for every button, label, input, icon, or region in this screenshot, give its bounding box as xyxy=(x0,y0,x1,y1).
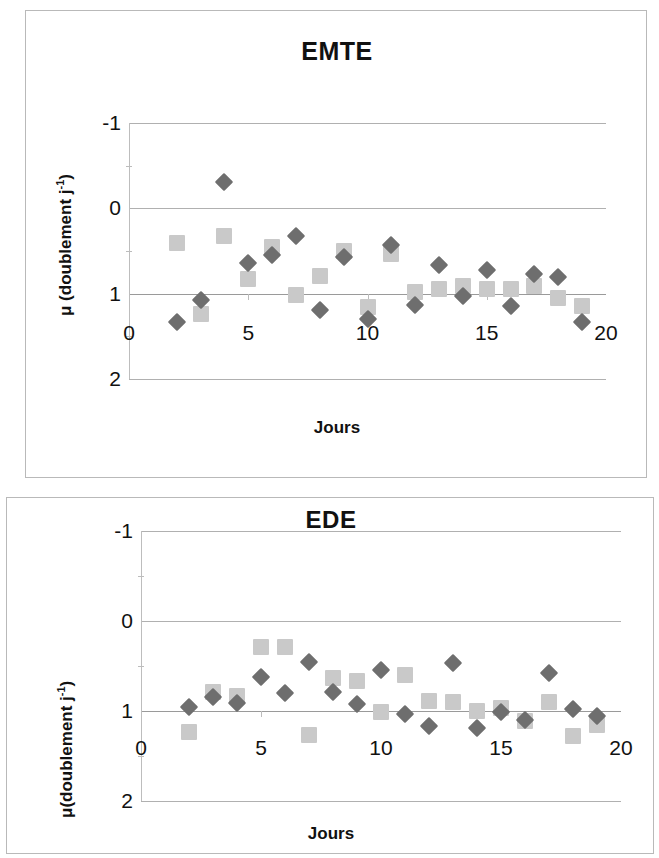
data-point-diamond xyxy=(252,668,270,686)
data-point-square xyxy=(240,271,256,287)
data-point-square xyxy=(301,727,317,743)
data-point-diamond xyxy=(311,301,329,319)
data-point-diamond xyxy=(396,704,414,722)
x-tick-label-5: 5 xyxy=(241,737,281,758)
x-tick-label-15: 15 xyxy=(481,737,521,758)
data-point-diamond xyxy=(564,700,582,718)
data-point-square xyxy=(479,281,495,297)
data-point-square xyxy=(277,639,293,655)
data-point-square xyxy=(181,724,197,740)
chart-panel-ede: EDE μ(doublement j-1) Jours 210-10510152… xyxy=(6,497,654,854)
x-tick-5 xyxy=(248,294,249,300)
y-axis-title-ede-text: μ(doublement j xyxy=(57,696,76,818)
data-point-square xyxy=(541,694,557,710)
data-point-square xyxy=(503,281,519,297)
gridline-y-2 xyxy=(141,531,621,532)
y-tick-label-2: 2 xyxy=(93,790,133,811)
data-point-diamond xyxy=(287,227,305,245)
data-point-square xyxy=(169,235,185,251)
data-point-square xyxy=(574,298,590,314)
gridline-y-1 xyxy=(141,621,621,622)
gridline-y--1 xyxy=(129,379,606,380)
gridline-y--1 xyxy=(141,801,621,802)
data-point-square xyxy=(373,704,389,720)
data-point-square xyxy=(216,228,232,244)
data-point-diamond xyxy=(167,313,185,331)
data-point-diamond xyxy=(501,297,519,315)
x-tick-5 xyxy=(261,711,262,717)
y-axis-title-ede-tail: ) xyxy=(57,681,76,687)
data-point-square xyxy=(253,639,269,655)
y-tick-label-0: 0 xyxy=(81,197,121,218)
data-point-diamond xyxy=(430,255,448,273)
chart-panel-emte: EMTE μ (doublement j-1) Jours 210-105101… xyxy=(25,10,647,478)
data-point-diamond xyxy=(276,684,294,702)
data-point-square xyxy=(349,673,365,689)
y-axis-title-ede-sup: -1 xyxy=(55,686,67,696)
plot-area-ede xyxy=(141,531,621,801)
x-tick-label-20: 20 xyxy=(586,322,626,343)
data-point-diamond xyxy=(444,654,462,672)
y-tick-label-2: 2 xyxy=(81,368,121,389)
data-point-square xyxy=(469,703,485,719)
data-point-square xyxy=(565,728,581,744)
data-point-diamond xyxy=(215,173,233,191)
y-axis-title-emte: μ (doublement j-1) xyxy=(54,174,76,316)
y-axis-title-emte-tail: ) xyxy=(56,174,75,180)
data-point-diamond xyxy=(300,653,318,671)
x-tick-label-0: 0 xyxy=(121,737,161,758)
data-point-square xyxy=(421,693,437,709)
data-point-square xyxy=(312,268,328,284)
data-point-diamond xyxy=(180,698,198,716)
y-tick-label-1: 1 xyxy=(93,700,133,721)
x-tick-label-5: 5 xyxy=(228,322,268,343)
x-tick-label-15: 15 xyxy=(467,322,507,343)
data-point-square xyxy=(445,694,461,710)
gridline-y-2 xyxy=(129,123,606,124)
y-axis-extension xyxy=(141,531,142,801)
chart-title-emte: EMTE xyxy=(26,37,648,66)
data-point-diamond xyxy=(239,254,257,272)
x-tick-label-10: 10 xyxy=(348,322,388,343)
data-point-diamond xyxy=(420,717,438,735)
x-tick-label-20: 20 xyxy=(601,737,641,758)
x-axis-title-emte: Jours xyxy=(26,418,648,438)
y-tick-label--1: -1 xyxy=(81,112,121,133)
y-tick-label-1: 1 xyxy=(81,283,121,304)
x-axis-title-ede: Jours xyxy=(7,824,655,844)
data-point-square xyxy=(397,667,413,683)
data-point-square xyxy=(431,281,447,297)
data-point-square xyxy=(550,290,566,306)
y-axis-title-emte-text: μ (doublement j xyxy=(56,189,75,316)
y-tick-label-0: 0 xyxy=(93,610,133,631)
data-point-square xyxy=(288,287,304,303)
data-point-diamond xyxy=(549,268,567,286)
data-point-diamond xyxy=(478,261,496,279)
y-tick-label--1: -1 xyxy=(93,520,133,541)
x-tick-label-10: 10 xyxy=(361,737,401,758)
figure-page: EMTE μ (doublement j-1) Jours 210-105101… xyxy=(0,0,659,858)
x-tick-label-0: 0 xyxy=(109,322,149,343)
gridline-y-1 xyxy=(129,208,606,209)
data-point-diamond xyxy=(540,664,558,682)
y-axis-title-emte-sup: -1 xyxy=(54,180,66,190)
y-axis-title-ede: μ(doublement j-1) xyxy=(55,681,77,818)
data-point-diamond xyxy=(468,719,486,737)
data-point-diamond xyxy=(372,660,390,678)
